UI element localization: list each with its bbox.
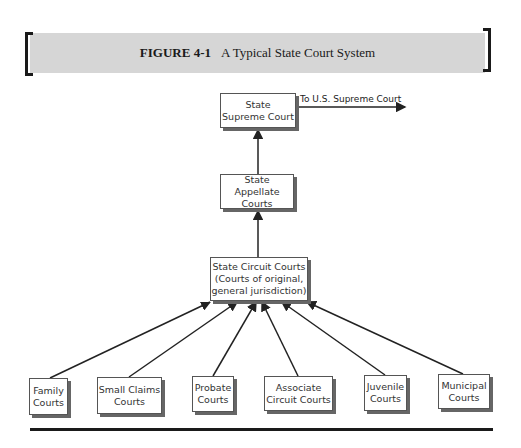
node-family-courts: Family Courts [29, 378, 68, 415]
to-us-supreme-court-label: To U.S. Supreme Court [300, 94, 401, 104]
node-municipal-courts: Municipal Courts [438, 374, 490, 409]
node-probate-courts: Probate Courts [192, 376, 234, 412]
bottom-rule [30, 428, 493, 431]
node-state-supreme-court: State Supreme Court [220, 93, 296, 128]
node-juvenile-courts: Juvenile Courts [364, 375, 407, 411]
node-state-appellate-courts: State Appellate Courts [220, 174, 294, 209]
node-small-claims-courts: Small Claims Courts [97, 377, 162, 414]
node-state-circuit-courts: State Circuit Courts (Courts of original… [210, 257, 308, 301]
node-associate-circuit-courts: Associate Circuit Courts [264, 376, 333, 411]
